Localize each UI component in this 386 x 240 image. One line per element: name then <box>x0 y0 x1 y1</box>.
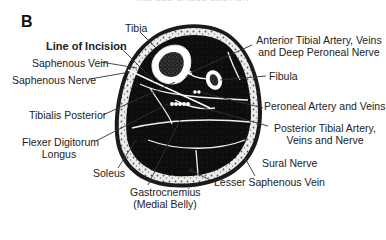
label-tibia: Tibia <box>125 22 147 34</box>
label-anterior-tibial: Anterior Tibial Artery, Veins and Deep P… <box>252 34 386 58</box>
label-gastrocnemius: Gastrocnemius (Medial Belly) <box>130 186 200 210</box>
label-flexor-line1: Flexer Digitorum <box>22 136 96 148</box>
label-anterior-tibial-line2: and Deep Peroneal Nerve <box>252 46 386 58</box>
label-lesser-saphenous-vein: Lesser Saphenous Vein <box>214 176 325 188</box>
label-saphenous-nerve: Saphenous Nerve <box>12 74 96 86</box>
label-peroneal-artery: Peroneal Artery and Veins <box>264 100 385 112</box>
label-posterior-tibial-line2: Veins and Nerve <box>266 134 384 146</box>
label-gastrocnemius-line2: (Medial Belly) <box>130 198 200 210</box>
label-flexor-line2: Longus <box>22 148 96 160</box>
label-soleus: Soleus <box>93 167 125 179</box>
label-sural-nerve: Sural Nerve <box>262 157 317 169</box>
label-saphenous-vein: Saphenous Vein <box>32 57 108 69</box>
label-gastrocnemius-line1: Gastrocnemius <box>130 186 200 198</box>
label-tibialis-posterior: Tibialis Posterior <box>29 109 106 121</box>
label-line-of-incision: Line of Incision <box>46 40 127 52</box>
label-posterior-tibial: Posterior Tibial Artery, Veins and Nerve <box>266 122 384 146</box>
label-fibula: Fibula <box>269 70 298 82</box>
label-anterior-tibial-line1: Anterior Tibial Artery, Veins <box>252 34 386 46</box>
label-flexor-digitorum-longus: Flexer Digitorum Longus <box>22 136 96 160</box>
label-posterior-tibial-line1: Posterior Tibial Artery, <box>266 122 384 134</box>
